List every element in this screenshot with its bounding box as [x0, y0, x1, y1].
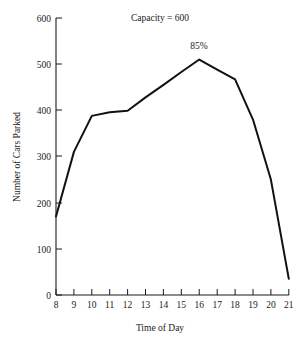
y-tick-label: 0 — [46, 291, 51, 301]
chart-figure: 600 500 400 300 200 100 0 8 — [0, 0, 303, 345]
x-axis-title: Time of Day — [136, 323, 184, 333]
x-axis-ticks — [56, 289, 289, 295]
x-tick-label: 9 — [72, 300, 77, 310]
x-tick-label: 16 — [194, 300, 204, 310]
y-tick-label: 600 — [37, 14, 52, 24]
x-tick-label: 11 — [105, 300, 114, 310]
y-tick-label: 500 — [37, 60, 52, 70]
x-tick-label: 21 — [284, 300, 294, 310]
peak-percentage-annotation: 85% — [190, 41, 208, 51]
x-tick-label: 18 — [230, 300, 240, 310]
x-tick-label: 13 — [141, 300, 151, 310]
x-tick-label: 12 — [123, 300, 133, 310]
x-tick-label: 20 — [266, 300, 276, 310]
y-axis-ticks — [56, 18, 62, 295]
capacity-annotation: Capacity = 600 — [131, 13, 189, 23]
y-tick-label: 400 — [37, 106, 52, 116]
y-tick-label: 200 — [37, 199, 52, 209]
x-tick-label: 19 — [248, 300, 258, 310]
y-axis-tick-labels: 600 500 400 300 200 100 0 — [37, 14, 52, 301]
x-tick-label: 10 — [87, 300, 97, 310]
x-axis-tick-labels: 8 9 10 11 12 13 14 15 16 17 18 19 20 21 — [54, 300, 294, 310]
y-axis-title: Number of Cars Parked — [12, 112, 22, 202]
y-tick-label: 100 — [37, 245, 52, 255]
y-tick-label: 300 — [37, 152, 52, 162]
data-series-line — [56, 60, 289, 279]
x-tick-label: 17 — [212, 300, 222, 310]
parking-occupancy-line-chart: 600 500 400 300 200 100 0 8 — [0, 0, 303, 345]
x-tick-label: 15 — [177, 300, 187, 310]
x-tick-label: 8 — [54, 300, 59, 310]
x-tick-label: 14 — [159, 300, 169, 310]
